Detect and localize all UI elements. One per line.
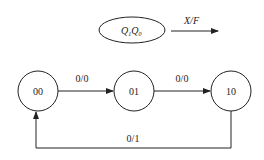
transition-01-10-label: 0/0	[176, 73, 189, 84]
state-10-label: 10	[226, 86, 236, 97]
state-00: 00	[18, 71, 58, 111]
state-01-label: 01	[129, 86, 139, 97]
legend-arrow-label: X/F	[183, 15, 200, 26]
transition-10-00-label: 0/1	[127, 133, 140, 144]
transition-00-01-label: 0/0	[76, 73, 89, 84]
state-00-label: 00	[33, 86, 43, 97]
transition-01-10: 0/0	[154, 73, 210, 91]
transition-10-00: 0/1	[36, 111, 231, 148]
legend-state-label: Q1Q0	[121, 25, 141, 37]
state-diagram: Q1Q0 X/F 00 01 10 0/0 0/0 0/1	[0, 0, 264, 160]
state-10: 10	[211, 71, 251, 111]
state-01: 01	[114, 71, 154, 111]
legend: Q1Q0 X/F	[99, 15, 218, 43]
transition-00-01: 0/0	[58, 73, 113, 91]
